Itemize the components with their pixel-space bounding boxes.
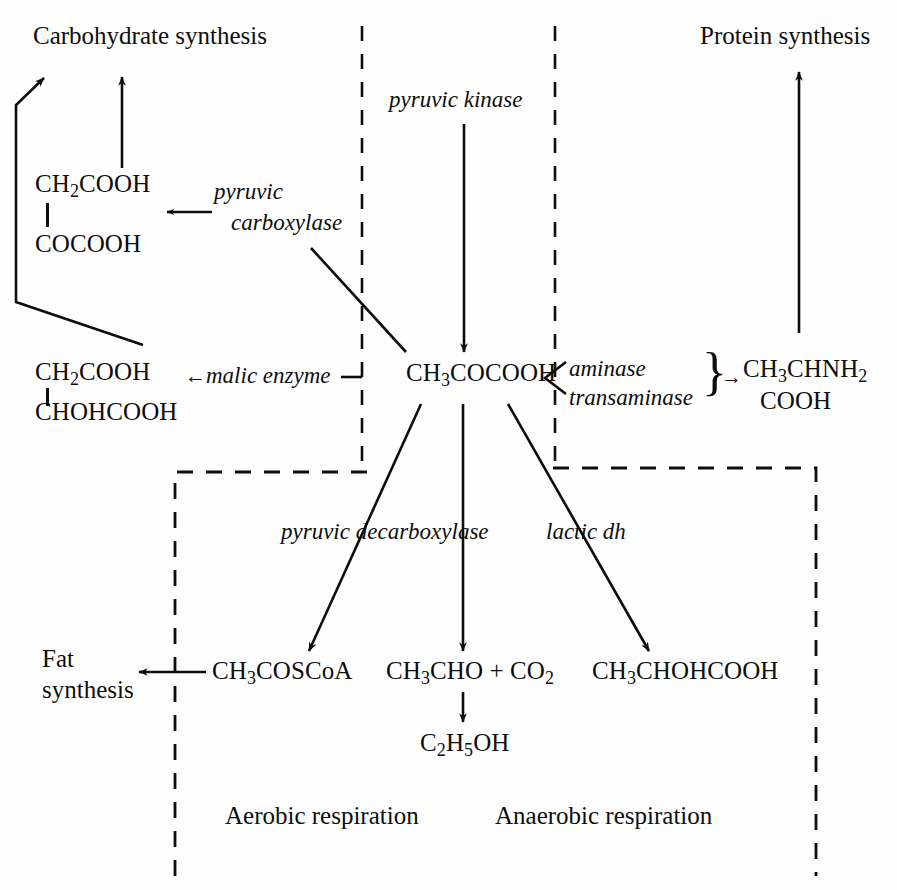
label-pyruvic-decarboxylase: pyruvic decarboxylase xyxy=(281,520,489,545)
arrow-malate-to-carbohydrate xyxy=(16,78,143,345)
alanine-rest: CHNH xyxy=(787,355,858,382)
co2-c: CO xyxy=(510,657,545,684)
oxaloacetate-top-subscript: 2 xyxy=(70,181,79,201)
pyruvate-rest: COCOOH xyxy=(450,359,556,386)
label-lactate: CH3CHOHCOOH xyxy=(592,657,779,688)
label-fat-synthesis-line2: synthesis xyxy=(42,676,134,703)
bond-oxaloacetate xyxy=(46,203,49,227)
label-malic-enzyme-group: ←malic enzyme xyxy=(185,364,331,389)
alanine-subscript-1: 3 xyxy=(778,366,787,386)
label-protein-synthesis: Protein synthesis xyxy=(700,22,870,49)
label-oxaloacetate-top: CH2COOH xyxy=(35,170,150,201)
label-pyruvic-carboxylase-line2: carboxylase xyxy=(231,211,342,236)
label-acetaldehyde-and-co2: CH3CHO + CO2 xyxy=(386,657,554,688)
label-alanine-line1: CH3CHNH2 xyxy=(743,355,867,386)
left-arrow-icon: ← xyxy=(185,364,206,388)
label-acetyl-coa: CH3COSCoA xyxy=(212,657,353,688)
pyruvate-metabolism-diagram: Carbohydrate synthesis Protein synthesis… xyxy=(0,0,897,890)
ethanol-c: C xyxy=(420,729,437,756)
malate-top-rest: COOH xyxy=(79,358,150,385)
label-ethanol: C2H5OH xyxy=(420,729,509,760)
line-pyruvate-to-carboxylase xyxy=(311,248,406,352)
label-oxaloacetate-bottom: COCOOH xyxy=(35,230,141,257)
label-fat-synthesis-line1: Fat xyxy=(42,645,74,672)
label-lactic-dh: lactic dh xyxy=(546,520,626,545)
label-pyruvate: CH3COCOOH xyxy=(406,359,556,390)
label-pyruvic-kinase: pyruvic kinase xyxy=(389,88,522,113)
label-malate-top: CH2COOH xyxy=(35,358,150,389)
lactate-rest: CHOHCOOH xyxy=(636,657,778,684)
label-anaerobic-respiration: Anaerobic respiration xyxy=(495,802,712,829)
pyruvate-subscript: 3 xyxy=(441,370,450,390)
right-arrow-icon: → xyxy=(721,366,742,389)
label-malic-enzyme: malic enzyme xyxy=(206,363,331,388)
label-malate-bottom: CHOHCOOH xyxy=(35,398,177,425)
bond-malate xyxy=(46,388,49,406)
acetaldehyde-c: CH xyxy=(386,657,421,684)
oxaloacetate-top-rest: COOH xyxy=(79,170,150,197)
label-alanine-line2: COOH xyxy=(760,387,831,414)
malate-top-subscript: 2 xyxy=(70,369,79,389)
ethanol-c-subscript: 2 xyxy=(437,740,446,760)
plus-sign: + xyxy=(490,657,504,684)
alanine-subscript-2: 2 xyxy=(858,366,867,386)
alanine-c: CH xyxy=(743,355,778,382)
acetaldehyde-subscript: 3 xyxy=(421,668,430,688)
label-pyruvic-carboxylase-line1: pyruvic xyxy=(214,180,283,205)
lactate-subscript: 3 xyxy=(627,668,636,688)
ethanol-h-subscript: 5 xyxy=(464,740,473,760)
label-carbohydrate-synthesis: Carbohydrate synthesis xyxy=(33,22,267,49)
label-aerobic-respiration: Aerobic respiration xyxy=(225,802,419,829)
acetaldehyde-rest: CHO xyxy=(430,657,483,684)
lactate-c: CH xyxy=(592,657,627,684)
acetylcoa-c: CH xyxy=(212,657,247,684)
acetylcoa-rest: COSCoA xyxy=(256,657,352,684)
pyruvate-c: CH xyxy=(406,359,441,386)
label-aminase: aminase xyxy=(569,357,646,382)
ethanol-oh: OH xyxy=(473,729,509,756)
malate-top-c: CH xyxy=(35,358,70,385)
acetylcoa-subscript: 3 xyxy=(247,668,256,688)
ethanol-h: H xyxy=(446,729,464,756)
label-transaminase: transaminase xyxy=(569,386,693,411)
oxaloacetate-top-c: CH xyxy=(35,170,70,197)
co2-subscript: 2 xyxy=(545,668,554,688)
